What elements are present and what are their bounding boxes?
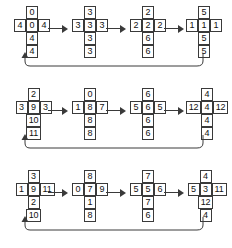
flow-arrow bbox=[106, 106, 128, 115]
cross-lower-stack: 124 bbox=[198, 196, 213, 222]
cross-spacer bbox=[210, 6, 222, 19]
row1-step1-below2-cell: 4 bbox=[26, 45, 38, 58]
cross-spacer bbox=[16, 88, 28, 101]
cross-spacer bbox=[186, 88, 201, 101]
cross-spacer bbox=[130, 32, 142, 45]
cross-spacer bbox=[14, 32, 26, 45]
row2-step2-left-cell: 1 bbox=[72, 101, 84, 114]
cross-spacer bbox=[72, 170, 84, 183]
row3-step4-below1-cell: 12 bbox=[198, 196, 213, 209]
arrow-head-icon bbox=[178, 189, 184, 197]
cross-spacer bbox=[72, 88, 84, 101]
cross-spacer bbox=[130, 196, 142, 209]
cross-slot: 45311124 bbox=[186, 164, 228, 222]
cross-slot: 333333 bbox=[72, 0, 108, 58]
row1-step1-top-cell: 0 bbox=[26, 6, 38, 19]
row2-step1-center-cell: 9 bbox=[28, 101, 40, 114]
cross-chain: 2393101101878865656641241244 bbox=[0, 82, 232, 164]
row3-step2-top-cell: 8 bbox=[84, 170, 96, 183]
flow-arrow bbox=[48, 106, 70, 115]
cross-spacer bbox=[186, 32, 198, 45]
row-1: 040444333333222266511155 bbox=[0, 0, 232, 82]
row1-step2-top-cell: 3 bbox=[84, 6, 96, 19]
cross-slot: 755676 bbox=[130, 164, 166, 222]
row3-step4-left-cell: 5 bbox=[188, 183, 200, 196]
cross-figure: 040444 bbox=[14, 6, 50, 58]
cross-figure: 41241244 bbox=[186, 88, 228, 140]
cross-spacer bbox=[96, 196, 108, 209]
row-3: 3191121080791875567645311124 bbox=[0, 164, 232, 246]
arrow-slot bbox=[164, 82, 186, 115]
diagram-canvas: 0404443333332222665111552393101101878865… bbox=[0, 0, 232, 248]
row3-step4-below2-cell: 4 bbox=[200, 209, 212, 222]
row1-step3-below2-cell: 6 bbox=[142, 45, 154, 58]
cross-spacer bbox=[130, 114, 142, 127]
row2-step1-below1-cell: 10 bbox=[26, 114, 41, 127]
cross-slot: 656566 bbox=[130, 82, 166, 140]
cross-spacer bbox=[130, 6, 142, 19]
row3-step3-left-cell: 5 bbox=[130, 183, 142, 196]
row-2: 2393101101878865656641241244 bbox=[0, 82, 232, 164]
cross-chain: 3191121080791875567645311124 bbox=[0, 164, 232, 246]
cross-spacer bbox=[186, 114, 201, 127]
cross-slot: 222266 bbox=[130, 0, 166, 58]
row2-step4-below1-cell: 4 bbox=[201, 114, 213, 127]
cross-spacer bbox=[212, 170, 227, 183]
cross-spacer bbox=[72, 6, 84, 19]
cross-spacer bbox=[188, 170, 200, 183]
cross-figure: 656566 bbox=[130, 88, 166, 140]
row2-step3-top-cell: 6 bbox=[142, 88, 154, 101]
row3-step4-right-cell: 11 bbox=[212, 183, 227, 196]
arrow-head-icon bbox=[120, 189, 126, 197]
arrow-head-icon bbox=[178, 107, 184, 115]
arrow-slot bbox=[106, 164, 128, 197]
row1-step2-below2-cell: 3 bbox=[84, 45, 96, 58]
cross-slot: 018788 bbox=[72, 82, 108, 140]
row3-step3-below1-cell: 7 bbox=[142, 196, 154, 209]
arrow-slot bbox=[106, 82, 128, 115]
row1-step1-below1-cell: 4 bbox=[26, 32, 38, 45]
cross-lower-stack: 66 bbox=[142, 32, 154, 58]
cross-figure: 333333 bbox=[72, 6, 108, 58]
row2-step3-below1-cell: 6 bbox=[142, 114, 154, 127]
cross-spacer bbox=[16, 170, 28, 183]
row1-step1-left-cell: 4 bbox=[14, 19, 26, 32]
row3-step1-center-cell: 9 bbox=[28, 183, 40, 196]
row1-step3-below1-cell: 6 bbox=[142, 32, 154, 45]
row1-step4-top-cell: 5 bbox=[198, 6, 210, 19]
cross-spacer bbox=[72, 32, 84, 45]
row1-step1-center-cell: 0 bbox=[26, 19, 38, 32]
arrow-head-icon bbox=[62, 25, 68, 33]
flow-arrow bbox=[164, 188, 186, 197]
row3-step3-top-cell: 7 bbox=[142, 170, 154, 183]
row1-step4-center-cell: 1 bbox=[198, 19, 210, 32]
cross-spacer bbox=[72, 196, 84, 209]
row2-step2-below1-cell: 8 bbox=[84, 114, 96, 127]
arrow-head-icon bbox=[120, 25, 126, 33]
cross-lower-stack: 33 bbox=[84, 32, 96, 58]
row3-step1-top-cell: 3 bbox=[28, 170, 40, 183]
cross-spacer bbox=[154, 196, 166, 209]
row1-step3-top-cell: 2 bbox=[142, 6, 154, 19]
row2-step3-left-cell: 5 bbox=[130, 101, 142, 114]
row3-step2-left-cell: 0 bbox=[72, 183, 84, 196]
cross-spacer bbox=[186, 196, 198, 209]
cross-lower-stack: 44 bbox=[201, 114, 213, 140]
cross-spacer bbox=[130, 170, 142, 183]
cross-spacer bbox=[186, 6, 198, 19]
row1-step4-left-cell: 1 bbox=[186, 19, 198, 32]
cross-lower-stack: 76 bbox=[142, 196, 154, 222]
cross-spacer bbox=[14, 6, 26, 19]
row2-step2-center-cell: 8 bbox=[84, 101, 96, 114]
row1-step4-right-cell: 1 bbox=[210, 19, 222, 32]
cross-slot: 040444 bbox=[14, 0, 50, 58]
cross-lower-stack: 55 bbox=[198, 32, 210, 58]
cross-spacer bbox=[41, 114, 53, 127]
cross-spacer bbox=[213, 114, 228, 127]
flow-arrow bbox=[164, 24, 186, 33]
arrow-head-icon bbox=[178, 25, 184, 33]
cross-spacer bbox=[38, 32, 50, 45]
row2-step2-below2-cell: 8 bbox=[84, 127, 96, 140]
flow-arrow bbox=[48, 188, 70, 197]
row3-step3-center-cell: 5 bbox=[142, 183, 154, 196]
